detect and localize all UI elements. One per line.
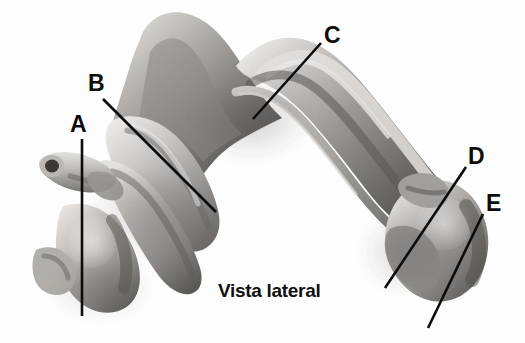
label-e: E xyxy=(486,192,501,215)
label-d: D xyxy=(468,145,484,168)
shadow-blend-upper xyxy=(196,86,304,154)
tube-lumen-inner xyxy=(45,160,59,173)
label-c: C xyxy=(324,24,340,47)
label-b: B xyxy=(88,72,104,95)
shadow-blend-bottom xyxy=(54,262,146,314)
figure-caption: Vista lateral xyxy=(218,281,320,300)
figure-page: ABCDE Vista lateral xyxy=(0,0,525,343)
label-a: A xyxy=(70,113,86,136)
